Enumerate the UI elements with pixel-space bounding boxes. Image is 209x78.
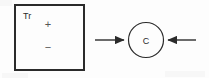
polarity-minus-label: −: [45, 41, 51, 53]
diagram-svg: Tr + − C: [0, 0, 209, 78]
polarity-plus-label: +: [45, 18, 51, 30]
transducer-box-label: Tr: [23, 11, 31, 21]
figure-canvas: Tr + − C: [0, 0, 209, 78]
node-circle-label: C: [143, 36, 150, 46]
